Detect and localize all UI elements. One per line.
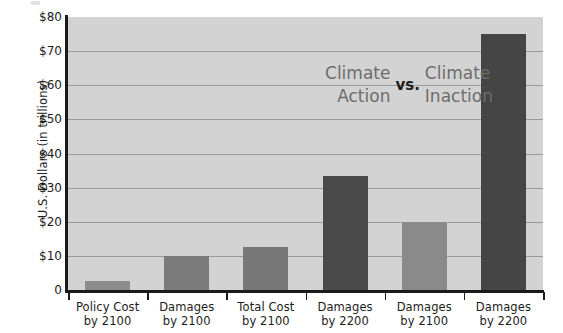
bar [243,247,288,290]
x-axis-category-label-line2: by 2200 [464,315,543,329]
y-tick-label: $20 [24,216,62,228]
y-tick-label: 0 [24,284,62,296]
bar [323,176,368,290]
x-axis-category-label: Damagesby 2100 [385,301,464,328]
y-tick-label: $50 [24,113,62,125]
y-axis-line [65,15,68,292]
x-axis-category-label-line1: Total Cost [237,300,294,314]
y-tick-label: $60 [24,79,62,91]
x-axis-category-label: Damagesby 2100 [147,301,226,328]
x-axis-category-label-line2: by 2100 [147,315,226,329]
x-axis-category-label: Damagesby 2200 [306,301,385,328]
x-axis-tick [226,292,228,300]
x-axis-tick [385,292,387,300]
bar [402,222,447,290]
x-axis-category-label-line1: Damages [159,300,214,314]
gridline [68,154,543,155]
gridline [68,51,543,52]
x-axis-category-label: Total Costby 2100 [226,301,305,328]
y-tick-label: $30 [24,182,62,194]
y-tick-label: $80 [24,11,62,23]
x-axis-tick [147,292,149,300]
x-axis-category-label-line2: by 2200 [306,315,385,329]
x-axis-line [65,290,544,293]
bar [481,34,526,290]
x-axis-category-label-line1: Policy Cost [76,300,139,314]
y-tick-label: $10 [24,250,62,262]
x-axis-category-label-line1: Damages [397,300,452,314]
x-axis-category-label-line1: Damages [317,300,372,314]
gridline [68,119,543,120]
bar [164,256,209,290]
x-axis-category-label: Damagesby 2200 [464,301,543,328]
bar [85,281,130,290]
x-axis-category-label-line2: by 2100 [68,315,147,329]
x-axis-tick [306,292,308,300]
x-axis-category-label-line1: Damages [476,300,531,314]
x-axis-tick [68,292,70,300]
y-tick-label: $70 [24,45,62,57]
gridline [68,256,543,257]
x-axis-tick [543,292,545,300]
bar-chart: U.S. Dollars (in trillions) $80$70$60$50… [0,0,563,333]
x-axis-category-label-line2: by 2100 [226,315,305,329]
x-axis-category-label-line2: by 2100 [385,315,464,329]
plot-area [68,17,543,290]
gridline [68,188,543,189]
gridline [68,222,543,223]
x-axis-category-label: Policy Costby 2100 [68,301,147,328]
gridline [68,85,543,86]
y-axis-tick-labels: $80$70$60$50$40$30$20$100 [24,0,62,333]
y-tick-label: $40 [24,148,62,160]
x-axis-tick [464,292,466,300]
